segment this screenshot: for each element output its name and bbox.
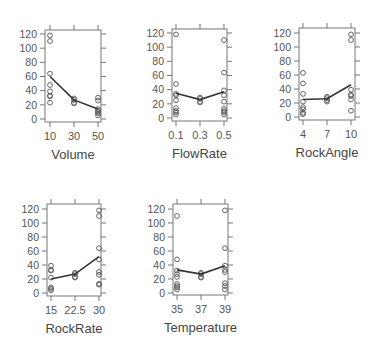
y-tick-label: 0 (31, 113, 37, 125)
y-tick-label: 0 (285, 111, 291, 123)
y-tick-label: 120 (147, 203, 165, 215)
x-tick-label: 10 (44, 130, 56, 142)
y-tick-label: 60 (279, 69, 291, 81)
y-tick-label: 100 (147, 217, 165, 229)
x-tick-label: 22.5 (64, 304, 85, 316)
y-tick-label: 120 (146, 27, 164, 39)
x-tick-label: 30 (93, 304, 105, 316)
y-tick-label: 100 (273, 41, 291, 53)
y-tick-label: 100 (21, 217, 39, 229)
y-tick-label: 20 (27, 273, 39, 285)
y-tick-label: 60 (25, 70, 37, 82)
y-tick-label: 80 (153, 231, 165, 243)
x-tick-label: 37 (195, 303, 207, 315)
y-tick-label: 120 (21, 203, 39, 215)
x-tick-label: 50 (92, 130, 104, 142)
y-tick-label: 20 (25, 99, 37, 111)
y-tick-label: 20 (152, 98, 164, 110)
x-tick-label: 0.3 (192, 129, 207, 141)
y-tick-label: 120 (19, 28, 37, 40)
x-tick-label: 0.5 (216, 129, 231, 141)
y-tick-label: 100 (19, 42, 37, 54)
y-tick-label: 20 (153, 273, 165, 285)
y-tick-label: 80 (27, 231, 39, 243)
panels-canvas: 020406080100120103050Volume0204060801001… (0, 0, 377, 355)
y-tick-label: 40 (25, 84, 37, 96)
x-tick-label: 4 (300, 128, 306, 140)
x-tick-label: 7 (324, 128, 330, 140)
y-tick-label: 0 (159, 287, 165, 299)
y-tick-label: 40 (152, 83, 164, 95)
x-tick-label: 15 (45, 304, 57, 316)
y-tick-label: 80 (152, 55, 164, 67)
x-axis-title: RockAngle (296, 145, 359, 160)
x-axis-title: Temperature (164, 320, 237, 335)
y-tick-label: 60 (152, 69, 164, 81)
y-tick-label: 40 (153, 259, 165, 271)
y-tick-label: 0 (158, 112, 164, 124)
y-tick-label: 100 (146, 41, 164, 53)
x-tick-label: 0.1 (168, 129, 183, 141)
y-tick-label: 40 (279, 83, 291, 95)
x-tick-label: 30 (68, 130, 80, 142)
x-axis-title: FlowRate (172, 146, 227, 161)
y-tick-label: 80 (279, 55, 291, 67)
y-tick-label: 120 (273, 27, 291, 39)
y-tick-label: 60 (153, 245, 165, 257)
x-tick-label: 39 (219, 303, 231, 315)
main-effects-figure: 020406080100120103050Volume0204060801001… (0, 0, 377, 355)
x-tick-label: 35 (171, 303, 183, 315)
y-tick-label: 0 (33, 287, 39, 299)
figure-background (0, 0, 377, 355)
x-axis-title: Volume (51, 147, 94, 162)
y-tick-label: 60 (27, 245, 39, 257)
x-tick-label: 10 (345, 128, 357, 140)
y-tick-label: 80 (25, 56, 37, 68)
y-tick-label: 40 (27, 259, 39, 271)
y-tick-label: 20 (279, 97, 291, 109)
x-axis-title: RockRate (45, 321, 102, 336)
